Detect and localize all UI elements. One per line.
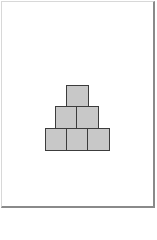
pyramid-block xyxy=(87,128,110,151)
pyramid-block xyxy=(76,106,99,129)
pyramid-block xyxy=(45,128,68,151)
pyramid-block xyxy=(66,128,89,151)
pyramid-block xyxy=(55,106,78,129)
pyramid-block xyxy=(66,85,89,108)
